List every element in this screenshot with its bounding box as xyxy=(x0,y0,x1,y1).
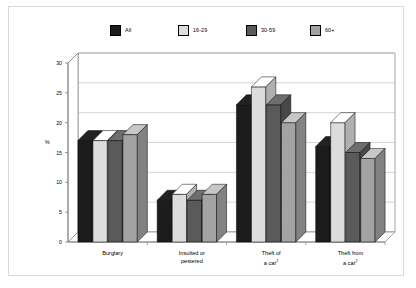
bar-1-0-front xyxy=(157,200,171,242)
bar-3-0-front xyxy=(316,147,330,242)
bar-0-2-front xyxy=(108,141,122,242)
bar-1-3-front xyxy=(202,194,216,242)
plot-left-wall xyxy=(68,53,78,242)
bar-0-3-side xyxy=(137,125,147,242)
bar-1-1-front xyxy=(172,194,186,242)
y-tick-label-30: 30 xyxy=(46,60,62,66)
bar-chart-plot xyxy=(0,0,416,288)
y-tick-label-5: 5 xyxy=(46,209,62,215)
bar-3-1-front xyxy=(331,123,345,242)
y-tick-label-10: 10 xyxy=(46,179,62,185)
y-tick-label-15: 15 xyxy=(46,150,62,156)
x-tick-label-3: Theft froma car2 xyxy=(307,250,393,267)
bar-2-3-side xyxy=(296,113,306,242)
y-tick-label-20: 20 xyxy=(46,120,62,126)
bar-0-0-front xyxy=(78,141,92,242)
bar-3-3-front xyxy=(361,158,375,242)
bar-2-3-front xyxy=(281,123,295,242)
bar-1-2-front xyxy=(187,200,201,242)
bar-2-2-front xyxy=(266,105,280,242)
bar-2-0-front xyxy=(236,105,250,242)
x-tick-label-0: Burglary xyxy=(70,250,156,258)
bar-1-3-side xyxy=(217,184,227,242)
bar-3-2-front xyxy=(346,153,360,243)
x-tick-label-1: Insulted orpestered xyxy=(149,250,235,265)
bar-0-1-front xyxy=(93,141,107,242)
y-tick-label-25: 25 xyxy=(46,90,62,96)
x-tick-label-2: Theft ofa car2 xyxy=(228,250,314,267)
bar-3-3-side xyxy=(375,148,385,242)
bar-2-1-front xyxy=(251,87,265,242)
y-axis-title: % xyxy=(45,139,50,145)
bar-0-3-front xyxy=(123,135,137,242)
y-tick-label-0: 0 xyxy=(46,239,62,245)
